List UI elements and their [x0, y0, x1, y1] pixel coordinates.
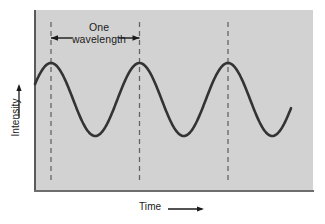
chart-svg — [0, 0, 325, 224]
x-axis-label: Time — [139, 201, 161, 212]
y-axis-group: Intensity — [4, 82, 26, 188]
wavelength-label-line2: wavelength — [60, 34, 138, 46]
wavelength-annotation: One wavelength — [60, 22, 138, 45]
crest-marker-lines — [51, 22, 228, 183]
wave-diagram-figure: One wavelength Intensity Time — [0, 0, 325, 224]
left-arrow-icon — [51, 35, 58, 41]
y-axis-label: Intensity — [10, 79, 21, 157]
right-arrow-icon — [197, 206, 204, 211]
wavelength-label-line1: One — [60, 22, 138, 34]
x-axis-arrow-group — [168, 206, 204, 211]
wave-curve — [35, 63, 291, 136]
